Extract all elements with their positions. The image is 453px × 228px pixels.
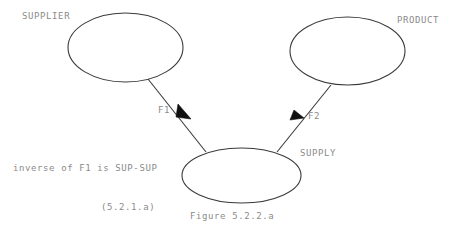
inverse-notes-block: inverse of F1 is SUP-SUP (5.2.1.a) inver… [13,136,163,228]
edge-label-f1: F1 [158,104,170,117]
entity-label-supply: SUPPLY [300,147,336,160]
supply-ellipse[interactable] [182,148,301,203]
supplier-ellipse[interactable] [68,13,183,82]
figure-canvas: SUPPLIER PRODUCT SUPPLY F1 F2 inverse of… [0,0,453,228]
edge-label-f2: F2 [308,110,320,123]
product-ellipse[interactable] [290,17,405,85]
edge-f2-line[interactable] [277,85,331,152]
edge-f1-arrowhead [176,104,191,119]
figure-caption: Figure 5.2.2.a [190,210,274,223]
edge-f2-arrowhead [290,110,304,120]
entity-label-product: PRODUCT [397,14,439,27]
note-line-f1-ref: (5.2.1.a) [13,201,163,214]
note-line-f1-text: inverse of F1 is SUP-SUP [13,162,163,175]
entity-label-supplier: SUPPLIER [22,10,70,23]
